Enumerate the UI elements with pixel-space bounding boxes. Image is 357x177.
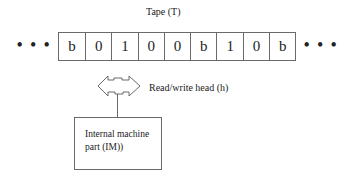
head-label: Read/write head (h)	[149, 82, 228, 93]
internal-machine-label-line1: Internal machine	[85, 128, 161, 141]
ellipsis-dot: •	[27, 35, 41, 55]
ellipsis-dot: •	[314, 35, 328, 55]
ellipsis-dot: •	[40, 35, 54, 55]
tape-cell: b	[191, 33, 217, 60]
tape-cell: 1	[112, 33, 138, 60]
tape-cell: 0	[139, 33, 165, 60]
tape-cell: b	[270, 33, 296, 60]
tape-cell: 0	[244, 33, 270, 60]
tape-cell: 0	[165, 33, 191, 60]
tape-label: Tape (T)	[146, 6, 181, 17]
ellipsis-dot: •	[13, 35, 27, 55]
double-arrow-head-icon	[96, 74, 146, 120]
tape-cell: 0	[86, 33, 112, 60]
right-ellipsis: •••	[300, 35, 341, 55]
internal-machine-label-line2: part (IM))	[85, 141, 161, 154]
left-ellipsis: •••	[13, 35, 54, 55]
ellipsis-dot: •	[300, 35, 314, 55]
tape: b 0 1 0 0 b 1 0 b	[58, 32, 296, 61]
tape-cell: 1	[217, 33, 243, 60]
ellipsis-dot: •	[327, 35, 341, 55]
internal-machine-box: Internal machine part (IM))	[74, 117, 162, 170]
tape-cell: b	[59, 33, 86, 60]
